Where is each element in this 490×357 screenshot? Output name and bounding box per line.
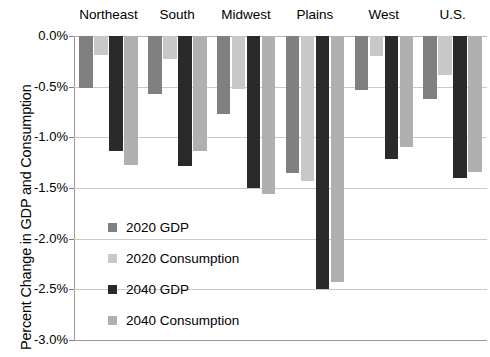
bar <box>453 36 467 178</box>
legend-item: 2040 GDP <box>108 274 318 305</box>
legend-swatch <box>108 285 117 294</box>
x-axis-category-label: U.S. <box>418 8 487 22</box>
x-axis-category-label: Northeast <box>74 8 143 22</box>
bar <box>217 36 231 114</box>
bar <box>438 36 452 75</box>
bar <box>94 36 108 55</box>
bar <box>385 36 399 159</box>
y-axis-tick-label: 0.0% <box>2 29 68 42</box>
legend-item: 2020 GDP <box>108 212 318 243</box>
y-axis-tick <box>69 289 74 290</box>
y-axis-tick-label: -1.0% <box>2 130 68 143</box>
bar <box>247 36 261 188</box>
legend-label: 2040 GDP <box>126 283 189 297</box>
bar <box>301 36 315 181</box>
bar <box>331 36 345 282</box>
bar <box>286 36 300 173</box>
x-axis-category-label: South <box>143 8 212 22</box>
bar <box>370 36 384 56</box>
y-axis-tick-label: -2.5% <box>2 282 68 295</box>
y-axis-tick <box>69 36 74 37</box>
bar <box>400 36 414 147</box>
y-axis-tick-labels: 0.0%-0.5%-1.0%-1.5%-2.0%-2.5%-3.0% <box>0 0 74 357</box>
x-axis-category-label: Midwest <box>212 8 281 22</box>
bar <box>109 36 123 151</box>
legend-label: 2040 Consumption <box>126 314 239 328</box>
legend-label: 2020 GDP <box>126 221 189 235</box>
legend-swatch <box>108 223 117 232</box>
legend: 2020 GDP2020 Consumption2040 GDP2040 Con… <box>108 212 318 336</box>
y-axis-tick-label: -1.5% <box>2 181 68 194</box>
legend-swatch <box>108 316 117 325</box>
bar <box>468 36 482 172</box>
bar <box>355 36 369 90</box>
bar <box>124 36 138 165</box>
y-axis-tick <box>69 188 74 189</box>
y-axis-tick-label: -3.0% <box>2 333 68 346</box>
bar <box>148 36 162 94</box>
bar <box>178 36 192 166</box>
x-axis-category-label: West <box>349 8 418 22</box>
legend-item: 2020 Consumption <box>108 243 318 274</box>
legend-item: 2040 Consumption <box>108 305 318 336</box>
gridline <box>74 340 487 341</box>
bar-chart: Percent Change in GDP and Consumption 0.… <box>0 0 490 357</box>
gridline <box>74 188 487 189</box>
legend-swatch <box>108 254 117 263</box>
x-axis-category-label: Plains <box>281 8 350 22</box>
y-axis-tick <box>69 239 74 240</box>
y-axis-tick <box>69 87 74 88</box>
y-axis-tick <box>69 340 74 341</box>
y-axis-tick <box>69 137 74 138</box>
bar <box>79 36 93 88</box>
legend-label: 2020 Consumption <box>126 252 239 266</box>
y-axis-tick-label: -0.5% <box>2 80 68 93</box>
bar <box>232 36 246 89</box>
bar <box>262 36 276 194</box>
bar <box>163 36 177 59</box>
bar <box>423 36 437 99</box>
y-axis-tick-label: -2.0% <box>2 232 68 245</box>
bar <box>193 36 207 151</box>
